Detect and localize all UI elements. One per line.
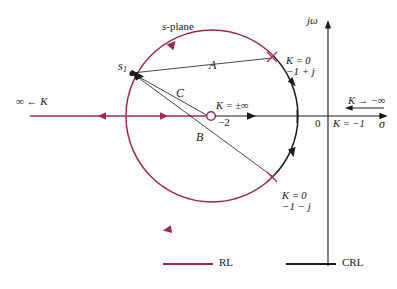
vector-a-label: A	[209, 59, 216, 72]
vector-c-line	[132, 73, 210, 117]
s1-point-marker	[129, 71, 134, 76]
pole-upper-value-label: −1 + j	[286, 66, 315, 78]
rl-left-arrow-icon	[98, 112, 106, 120]
vector-b-label: B	[196, 131, 203, 144]
s-plane-label: s-plane	[162, 21, 194, 33]
legend-rl-label: RL	[219, 257, 233, 269]
k-minus-one-label: K = −1	[333, 118, 365, 129]
crl-real-axis-branch	[247, 112, 256, 120]
root-locus-svg	[0, 0, 397, 289]
s1-subscript: 1	[123, 64, 127, 74]
vector-c-label: C	[176, 87, 184, 100]
zero-circle-marker	[207, 112, 216, 121]
vector-a-line	[132, 58, 272, 73]
s1-label: s1	[118, 60, 127, 74]
zero-gain-label: K = ±∞	[216, 100, 249, 111]
imaginary-axis-label: jω	[307, 15, 318, 27]
crl-right-arrow-icon	[247, 112, 256, 120]
real-axis-label: σ	[379, 118, 385, 131]
origin-label: 0	[315, 118, 321, 130]
rl-right-arrow-icon	[160, 112, 168, 120]
rl-arrow-bottom-icon	[163, 225, 172, 233]
zero-value-label: −2	[218, 117, 230, 129]
right-branch-label: K → −∞	[348, 95, 385, 106]
pole-lower-x-icon	[267, 172, 277, 182]
vector-b-line	[132, 73, 272, 176]
root-locus-figure: s-plane s1 A B C K = ±∞ −2 K = 0 −1 + j …	[0, 0, 397, 289]
legend-crl-label: CRL	[342, 257, 363, 269]
left-branch-label: ∞ ← K	[16, 96, 48, 108]
pole-lower-value-label: −1 − j	[282, 201, 311, 213]
rl-real-axis-branch	[30, 112, 211, 120]
